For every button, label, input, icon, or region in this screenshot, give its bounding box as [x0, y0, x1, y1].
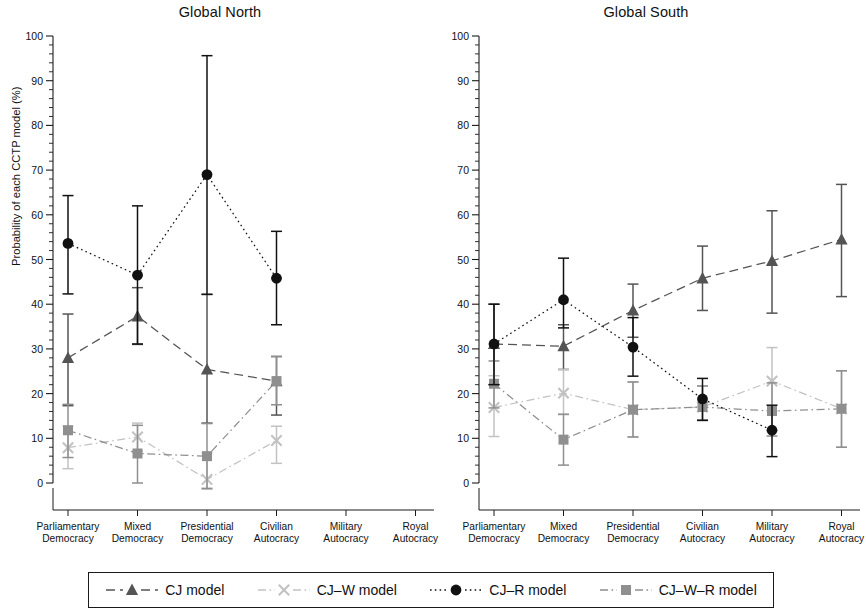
svg-text:Democracy: Democracy — [607, 533, 659, 544]
svg-text:70: 70 — [457, 164, 469, 176]
svg-text:Autocracy: Autocracy — [254, 533, 300, 544]
svg-text:Autocracy: Autocracy — [323, 533, 369, 544]
series-cj-w-model — [63, 423, 283, 489]
legend: CJ model CJ–W model CJ–R model CJ–W–R mo… — [88, 572, 774, 608]
svg-text:Parliamentary: Parliamentary — [37, 521, 101, 532]
svg-text:Civilian: Civilian — [260, 521, 293, 532]
svg-text:90: 90 — [31, 75, 43, 87]
svg-text:Mixed: Mixed — [550, 521, 578, 532]
plot-area-global-north: 0102030405060708090100ParliamentaryDemoc… — [0, 0, 440, 560]
legend-item-cj: CJ model — [105, 581, 224, 599]
svg-text:20: 20 — [31, 388, 43, 400]
legend-label-cj-w: CJ–W model — [317, 582, 397, 598]
svg-text:60: 60 — [457, 209, 469, 221]
svg-text:Democracy: Democracy — [112, 533, 164, 544]
svg-text:Democracy: Democracy — [181, 533, 233, 544]
svg-text:90: 90 — [457, 75, 469, 87]
legend-label-cj-w-r: CJ–W–R model — [659, 582, 757, 598]
svg-text:10: 10 — [31, 432, 43, 444]
triangle-icon — [105, 581, 159, 599]
svg-text:Autocracy: Autocracy — [749, 533, 795, 544]
svg-text:40: 40 — [457, 298, 469, 310]
series-cj-r-model — [63, 56, 283, 344]
svg-text:Mixed: Mixed — [124, 521, 152, 532]
circle-icon — [429, 581, 483, 599]
square-icon — [599, 581, 653, 599]
svg-text:10: 10 — [457, 432, 469, 444]
legend-label-cj: CJ model — [165, 582, 224, 598]
legend-item-cj-w: CJ–W model — [257, 581, 397, 599]
legend-label-cj-r: CJ–R model — [489, 582, 566, 598]
panel-global-south: Global South 0102030405060708090100Parli… — [426, 0, 866, 560]
figure-root: Probability of each CCTP model (%) Globa… — [0, 0, 866, 614]
svg-text:Royal: Royal — [402, 521, 428, 532]
cross-icon — [257, 581, 311, 599]
svg-text:Autocracy: Autocracy — [819, 533, 865, 544]
svg-text:100: 100 — [25, 30, 43, 42]
svg-text:60: 60 — [31, 209, 43, 221]
svg-text:100: 100 — [451, 30, 469, 42]
legend-item-cj-w-r: CJ–W–R model — [599, 581, 757, 599]
svg-text:Autocracy: Autocracy — [680, 533, 726, 544]
svg-text:Democracy: Democracy — [538, 533, 590, 544]
svg-text:50: 50 — [457, 254, 469, 266]
svg-text:80: 80 — [31, 119, 43, 131]
svg-text:Democracy: Democracy — [468, 533, 520, 544]
svg-text:Presidential: Presidential — [606, 521, 659, 532]
svg-text:Royal: Royal — [828, 521, 854, 532]
svg-text:Civilian: Civilian — [686, 521, 719, 532]
svg-text:0: 0 — [463, 477, 469, 489]
svg-text:40: 40 — [31, 298, 43, 310]
svg-text:20: 20 — [457, 388, 469, 400]
svg-text:0: 0 — [37, 477, 43, 489]
svg-text:Parliamentary: Parliamentary — [463, 521, 527, 532]
svg-text:30: 30 — [31, 343, 43, 355]
svg-text:Military: Military — [330, 521, 363, 532]
svg-text:Presidential: Presidential — [180, 521, 233, 532]
panel-global-north: Global North 0102030405060708090100Parli… — [0, 0, 440, 560]
series-cj-w-r-model — [489, 361, 848, 465]
svg-text:Democracy: Democracy — [42, 533, 94, 544]
legend-item-cj-r: CJ–R model — [429, 581, 566, 599]
plot-area-global-south: 0102030405060708090100ParliamentaryDemoc… — [426, 0, 866, 560]
svg-text:80: 80 — [457, 119, 469, 131]
svg-text:Military: Military — [756, 521, 789, 532]
svg-text:50: 50 — [31, 254, 43, 266]
svg-text:30: 30 — [457, 343, 469, 355]
series-cj-model — [488, 184, 848, 384]
series-cj-model — [62, 288, 283, 423]
series-cj-w-model — [489, 348, 848, 448]
svg-text:70: 70 — [31, 164, 43, 176]
